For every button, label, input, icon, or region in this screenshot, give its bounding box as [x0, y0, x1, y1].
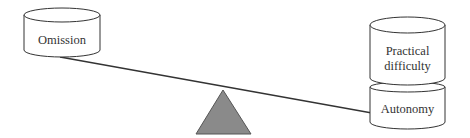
label-difficulty: difficulty — [384, 59, 431, 73]
label-omission: Omission — [38, 33, 87, 47]
fulcrum-triangle — [196, 90, 251, 134]
cylinder-omission: Omission — [24, 8, 100, 57]
label-autonomy: Autonomy — [381, 102, 435, 116]
cylinder-practical-difficulty: Practical difficulty — [370, 17, 445, 85]
label-practical: Practical — [386, 44, 430, 58]
balance-diagram: Omission Autonomy Practical difficulty — [0, 0, 470, 138]
cylinder-autonomy: Autonomy — [370, 82, 445, 129]
